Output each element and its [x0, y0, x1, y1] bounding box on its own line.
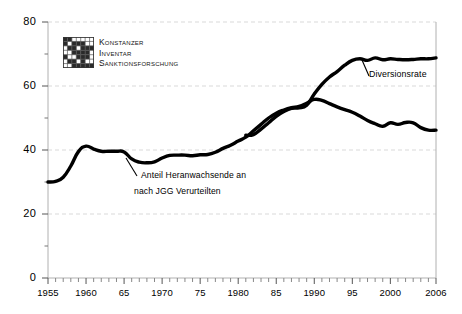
annotation-jgg-line1: Anteil Heranwachsende an [141, 170, 246, 180]
kis-logo: Konstanzer Inventar Sanktionsforschung [63, 37, 178, 69]
x-tick-label-1955: 1955 [31, 287, 65, 298]
x-tick-label-1960: 1960 [69, 287, 103, 298]
logo-line-3: Sanktionsforschung [99, 58, 178, 69]
annotation-jgg-line2: nach JGG Verurteilten [134, 186, 221, 196]
x-tick-label-75: 75 [183, 287, 217, 298]
x-tick-label-2000: 2000 [373, 287, 407, 298]
x-tick-label-65: 65 [107, 287, 141, 298]
y-tick-label-60: 60 [8, 79, 36, 91]
x-tick-label-85: 85 [259, 287, 293, 298]
chart-container: 020406080 195519606519707519808519909520… [0, 0, 462, 314]
y-tick-label-0: 0 [8, 271, 36, 283]
y-tick-label-40: 40 [8, 143, 36, 155]
x-tick-label-95: 95 [335, 287, 369, 298]
y-tick-label-80: 80 [8, 15, 36, 27]
logo-line-1: Konstanzer [99, 37, 178, 48]
x-tick-label-2006: 2006 [419, 287, 453, 298]
x-tick-label-1980: 1980 [221, 287, 255, 298]
x-axis-ticks [48, 278, 436, 284]
y-tick-label-20: 20 [8, 207, 36, 219]
kis-logo-text: Konstanzer Inventar Sanktionsforschung [99, 37, 178, 69]
kis-logo-grid-icon [63, 37, 94, 68]
x-tick-label-1990: 1990 [297, 287, 331, 298]
logo-line-2: Inventar [99, 48, 178, 59]
x-tick-label-1970: 1970 [145, 287, 179, 298]
y-axis-ticks [42, 22, 48, 278]
leader-line-diversionsrate [362, 60, 369, 76]
annotation-diversionsrate: Diversionsrate [369, 69, 427, 79]
